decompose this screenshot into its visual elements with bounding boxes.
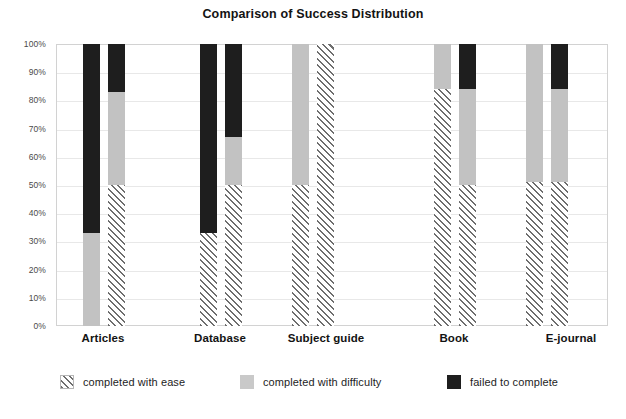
bar-segment[interactable] bbox=[526, 44, 543, 182]
bar-segment[interactable] bbox=[108, 92, 125, 185]
y-axis-tick-label: 10% bbox=[29, 293, 46, 303]
bar-segment[interactable] bbox=[225, 185, 242, 326]
bar-segment[interactable] bbox=[459, 89, 476, 185]
legend-swatch-icon bbox=[447, 375, 461, 389]
bar-segment[interactable] bbox=[225, 44, 242, 137]
legend-swatch-icon bbox=[240, 375, 254, 389]
y-axis-tick-label: 40% bbox=[29, 208, 46, 218]
x-axis-category-label: Book bbox=[439, 332, 468, 344]
x-axis-category-label: Subject guide bbox=[288, 332, 365, 344]
bar-segment[interactable] bbox=[108, 185, 125, 326]
chart-title: Comparison of Success Distribution bbox=[0, 7, 626, 21]
legend-label: completed with difficulty bbox=[263, 376, 381, 388]
stacked-bar[interactable] bbox=[526, 44, 543, 326]
legend-item[interactable]: failed to complete bbox=[447, 375, 558, 389]
bars-layer bbox=[56, 44, 608, 326]
legend-label: completed with ease bbox=[83, 376, 185, 388]
bar-segment[interactable] bbox=[551, 89, 568, 182]
y-axis-tick-label: 70% bbox=[29, 124, 46, 134]
bar-segment[interactable] bbox=[292, 185, 309, 326]
bar-segment[interactable] bbox=[317, 44, 334, 326]
bar-segment[interactable] bbox=[434, 89, 451, 326]
bar-segment[interactable] bbox=[83, 44, 100, 233]
bar-segment[interactable] bbox=[200, 44, 217, 233]
x-axis-category-label: Articles bbox=[82, 332, 125, 344]
bar-segment[interactable] bbox=[459, 44, 476, 89]
stacked-bar[interactable] bbox=[459, 44, 476, 326]
stacked-bar[interactable] bbox=[225, 44, 242, 326]
stacked-bar[interactable] bbox=[200, 44, 217, 326]
bar-segment[interactable] bbox=[434, 44, 451, 89]
y-axis-tick-label: 0% bbox=[34, 321, 47, 331]
y-axis-tick-label: 80% bbox=[29, 95, 46, 105]
stacked-bar[interactable] bbox=[317, 44, 334, 326]
y-axis-tick-label: 100% bbox=[24, 39, 46, 49]
bar-segment[interactable] bbox=[292, 44, 309, 185]
legend-swatch-icon bbox=[60, 375, 74, 389]
stacked-bar[interactable] bbox=[108, 44, 125, 326]
bar-segment[interactable] bbox=[83, 233, 100, 326]
y-axis: 0%10%20%30%40%50%60%70%80%90%100% bbox=[0, 44, 52, 326]
bar-segment[interactable] bbox=[108, 44, 125, 92]
stacked-bar[interactable] bbox=[83, 44, 100, 326]
bar-segment[interactable] bbox=[526, 182, 543, 326]
stacked-bar[interactable] bbox=[551, 44, 568, 326]
y-axis-tick-label: 60% bbox=[29, 152, 46, 162]
x-axis-category-label: E-journal bbox=[546, 332, 597, 344]
y-axis-tick-label: 20% bbox=[29, 265, 46, 275]
bar-segment[interactable] bbox=[200, 233, 217, 326]
legend-item[interactable]: completed with ease bbox=[60, 375, 185, 389]
chart-legend: completed with easecompleted with diffic… bbox=[0, 375, 626, 399]
y-axis-tick-label: 90% bbox=[29, 67, 46, 77]
stacked-bar[interactable] bbox=[434, 44, 451, 326]
bar-segment[interactable] bbox=[225, 137, 242, 185]
legend-label: failed to complete bbox=[470, 376, 558, 388]
y-axis-tick-label: 50% bbox=[29, 180, 46, 190]
chart-container: Comparison of Success Distribution 0%10%… bbox=[0, 0, 626, 419]
bar-segment[interactable] bbox=[459, 185, 476, 326]
x-axis: ArticlesDatabaseSubject guideBookE-journ… bbox=[56, 332, 608, 354]
bar-segment[interactable] bbox=[551, 44, 568, 89]
bar-segment[interactable] bbox=[551, 182, 568, 326]
legend-item[interactable]: completed with difficulty bbox=[240, 375, 381, 389]
y-axis-tick-label: 30% bbox=[29, 236, 46, 246]
x-axis-category-label: Database bbox=[194, 332, 246, 344]
stacked-bar[interactable] bbox=[292, 44, 309, 326]
